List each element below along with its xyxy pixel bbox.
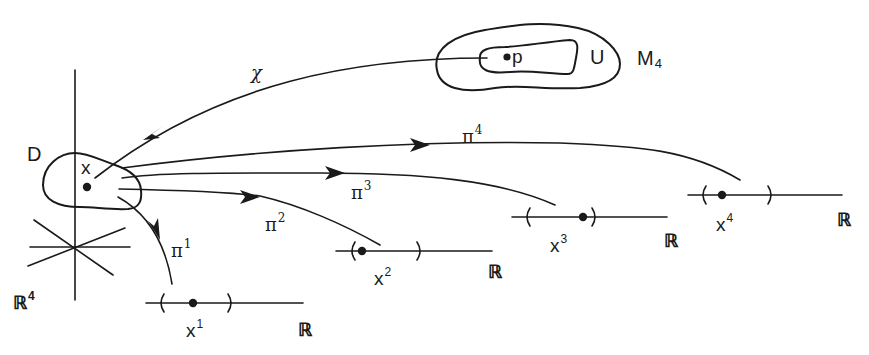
point-x1 <box>189 299 197 307</box>
label-r-line4: ℝ <box>837 211 851 229</box>
label-r4: ℝ4 <box>13 290 35 312</box>
chart-chi-arrow <box>95 58 487 178</box>
point-p <box>503 53 510 60</box>
label-p: p <box>512 47 523 66</box>
point-x <box>83 183 91 191</box>
point-x3 <box>579 213 587 221</box>
label-pi1: π1 <box>171 238 191 260</box>
chi-arrowhead <box>143 126 163 140</box>
label-x3: x3 <box>550 233 567 255</box>
label-pi2: π2 <box>265 212 285 234</box>
diagram-canvas <box>0 0 869 355</box>
pi1-arrowhead <box>148 218 160 240</box>
projection-pi3-curve <box>122 173 555 205</box>
point-x2 <box>358 247 366 255</box>
label-r-line2: ℝ <box>488 263 502 281</box>
pi4-arrowhead <box>410 138 430 152</box>
projection-pi4-curve <box>122 142 740 180</box>
point-x4 <box>718 191 726 199</box>
pi2-arrowhead <box>240 190 260 204</box>
label-d: D <box>27 144 41 164</box>
label-pi3: π3 <box>351 180 371 202</box>
label-m4: M4 <box>637 48 662 70</box>
label-u: U <box>590 47 604 67</box>
label-pi4: π4 <box>462 124 482 146</box>
open-set-u-outline <box>480 40 578 74</box>
domain-d-outline <box>43 153 141 209</box>
label-x4: x4 <box>716 212 733 234</box>
label-x2: x2 <box>374 266 391 288</box>
label-r-line3: ℝ <box>664 232 678 250</box>
label-x: x <box>81 158 91 177</box>
label-r-line1: ℝ <box>298 321 312 339</box>
label-x1: x1 <box>186 318 203 340</box>
label-chi: χ <box>251 64 262 82</box>
